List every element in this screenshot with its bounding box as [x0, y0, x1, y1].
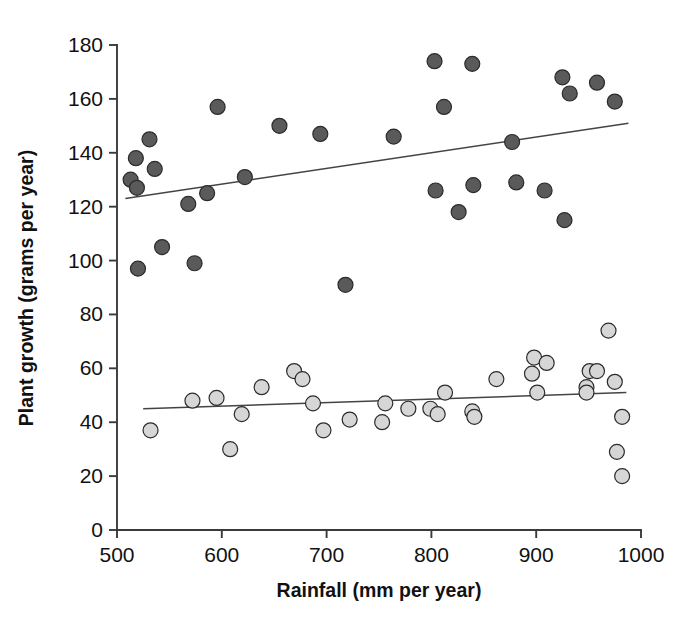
data-point — [237, 170, 252, 185]
data-point — [579, 385, 594, 400]
data-point — [187, 256, 202, 271]
x-tick-label: 500 — [99, 543, 134, 566]
data-point — [313, 126, 328, 141]
x-tick-label: 900 — [519, 543, 554, 566]
y-tick-label: 0 — [91, 518, 103, 541]
data-point — [615, 409, 630, 424]
data-point — [430, 407, 445, 422]
data-point — [128, 151, 143, 166]
y-tick-label: 120 — [68, 195, 103, 218]
data-point — [210, 99, 225, 114]
y-tick-label: 180 — [68, 33, 103, 56]
data-point — [181, 196, 196, 211]
data-point — [142, 132, 157, 147]
data-point — [272, 118, 287, 133]
data-point — [438, 385, 453, 400]
data-point — [234, 407, 249, 422]
data-point — [427, 54, 442, 69]
data-point — [589, 75, 604, 90]
data-point — [386, 129, 401, 144]
y-tick-label: 20 — [80, 464, 103, 487]
data-point — [557, 213, 572, 228]
data-point — [254, 380, 269, 395]
scatter-plot-figure: 5006007008009001000 02040608010012014016… — [0, 0, 693, 631]
data-point — [375, 415, 390, 430]
data-point — [467, 409, 482, 424]
data-point — [342, 412, 357, 427]
data-point — [465, 56, 480, 71]
data-point — [505, 135, 520, 150]
data-point — [143, 423, 158, 438]
data-point — [185, 393, 200, 408]
data-point — [129, 180, 144, 195]
data-point — [607, 94, 622, 109]
data-point — [295, 372, 310, 387]
data-point — [530, 385, 545, 400]
data-point — [428, 183, 443, 198]
x-axis-title: Rainfall (mm per year) — [277, 579, 482, 601]
data-point — [223, 442, 238, 457]
data-point — [155, 240, 170, 255]
data-point — [209, 390, 224, 405]
plot-canvas: 5006007008009001000 02040608010012014016… — [0, 0, 693, 631]
x-tick-label: 1000 — [618, 543, 665, 566]
data-point — [130, 261, 145, 276]
y-tick-label: 140 — [68, 141, 103, 164]
y-tick-label: 40 — [80, 410, 103, 433]
data-point — [509, 175, 524, 190]
data-point — [562, 86, 577, 101]
data-point — [401, 401, 416, 416]
data-point — [539, 355, 554, 370]
data-point — [200, 186, 215, 201]
y-tick-label: 80 — [80, 302, 103, 325]
data-point — [466, 178, 481, 193]
data-point — [378, 396, 393, 411]
plot-background — [0, 0, 693, 631]
y-tick-label: 60 — [80, 356, 103, 379]
data-point — [615, 469, 630, 484]
data-point — [601, 323, 616, 338]
data-point — [555, 70, 570, 85]
data-point — [436, 99, 451, 114]
data-point — [451, 205, 466, 220]
x-tick-label: 600 — [204, 543, 239, 566]
data-point — [338, 277, 353, 292]
y-axis-title: Plant growth (grams per year) — [15, 150, 37, 426]
data-point — [609, 444, 624, 459]
data-point — [489, 372, 504, 387]
data-point — [607, 374, 622, 389]
data-point — [525, 366, 540, 381]
data-point — [316, 423, 331, 438]
data-point — [589, 364, 604, 379]
data-point — [537, 183, 552, 198]
x-tick-label: 700 — [309, 543, 344, 566]
data-point — [305, 396, 320, 411]
y-tick-label: 160 — [68, 87, 103, 110]
y-tick-label: 100 — [68, 249, 103, 272]
caption-strip — [0, 605, 693, 631]
x-tick-label: 800 — [414, 543, 449, 566]
data-point — [147, 161, 162, 176]
